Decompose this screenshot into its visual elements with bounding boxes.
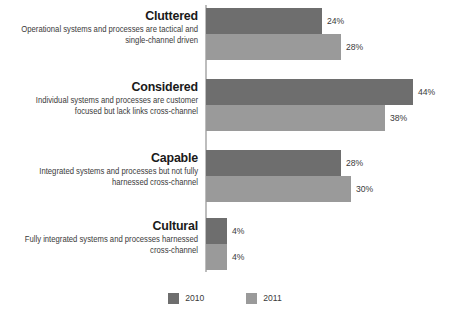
bar-2011[interactable]	[206, 244, 227, 270]
plot-area: Cluttered Operational systems and proces…	[0, 0, 450, 280]
bar-chart: Cluttered Operational systems and proces…	[0, 0, 450, 317]
group-description: Fully integrated systems and processes h…	[12, 235, 198, 256]
legend-label: 2011	[263, 293, 281, 303]
bar-value-2011: 38%	[385, 105, 407, 131]
bar-2011[interactable]	[206, 176, 351, 202]
bar-value-2010: 44%	[413, 79, 435, 105]
group-description-line: Individual systems and processes are cus…	[12, 96, 198, 107]
group-label-block: Capable Integrated systems and processes…	[0, 150, 198, 188]
bar-2011[interactable]	[206, 105, 385, 131]
group-description-line: Fully integrated systems and processes h…	[12, 235, 198, 246]
group-title: Cultural	[16, 218, 198, 233]
group-description: Individual systems and processes are cus…	[12, 96, 198, 117]
group-description-line: Integrated systems and processes but not…	[12, 167, 198, 178]
group-label-block: Cluttered Operational systems and proces…	[0, 8, 198, 46]
legend-swatch-icon	[246, 293, 257, 304]
legend-item-2010[interactable]: 2010	[168, 293, 204, 304]
group-description: Integrated systems and processes but not…	[12, 167, 198, 188]
chart-legend: 2010 2011	[0, 288, 450, 308]
legend-swatch-icon	[168, 293, 179, 304]
group-label-block: Considered Individual systems and proces…	[0, 79, 198, 117]
group-label-block: Cultural Fully integrated systems and pr…	[0, 218, 198, 256]
bar-value-2010: 4%	[227, 218, 244, 244]
group-title: Capable	[16, 150, 198, 165]
group-description-line: cross-channel	[12, 246, 198, 257]
bar-value-2011: 28%	[341, 34, 363, 60]
group-description-line: Operational systems and processes are ta…	[12, 25, 198, 36]
group-description-line: focused but lack links cross-channel	[12, 107, 198, 118]
bar-2010[interactable]	[206, 218, 227, 244]
legend-item-2011[interactable]: 2011	[246, 293, 281, 304]
bar-value-2011: 30%	[351, 176, 373, 202]
bar-2011[interactable]	[206, 34, 341, 60]
group-title: Considered	[16, 79, 198, 94]
bar-value-2011: 4%	[227, 244, 244, 270]
group-description: Operational systems and processes are ta…	[12, 25, 198, 46]
bar-2010[interactable]	[206, 8, 322, 34]
group-description-line: harnessed cross-channel	[12, 178, 198, 189]
legend-label: 2010	[185, 293, 204, 303]
bar-2010[interactable]	[206, 79, 413, 105]
group-description-line: single-channel driven	[12, 36, 198, 47]
group-title: Cluttered	[16, 8, 198, 23]
bar-value-2010: 28%	[341, 150, 363, 176]
bar-2010[interactable]	[206, 150, 341, 176]
bar-value-2010: 24%	[322, 8, 344, 34]
